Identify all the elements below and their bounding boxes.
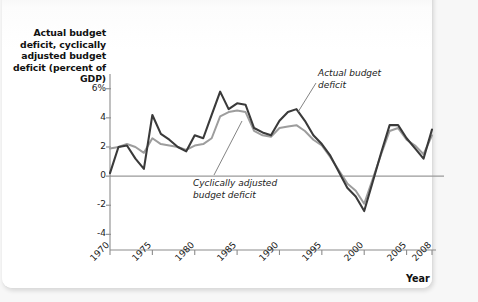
x-tick-label: 2000	[342, 240, 365, 263]
x-tick-label: 1995	[300, 240, 323, 263]
x-tick-label: 2005	[385, 240, 408, 263]
page-background: Actual budget deficit, cyclically adjust…	[0, 0, 478, 302]
x-tick-label: 1975	[130, 240, 153, 263]
annotation-actual-budget-deficit: Actual budget deficit	[318, 68, 381, 91]
line-chart: Actual budget deficit, cyclically adjust…	[0, 0, 478, 302]
annotation-cyclically-adjusted-budget-deficit: Cyclically adjusted budget deficit	[193, 178, 277, 201]
x-tick-label: 2008	[410, 240, 433, 263]
x-tick-label: 1970	[88, 240, 111, 263]
x-axis-tick-labels: 197019751980198519901995200020052008	[0, 0, 478, 302]
x-tick-label: 1980	[173, 240, 196, 263]
x-axis-title: Year	[406, 273, 430, 284]
x-tick-label: 1990	[257, 240, 280, 263]
x-tick-label: 1985	[215, 240, 238, 263]
